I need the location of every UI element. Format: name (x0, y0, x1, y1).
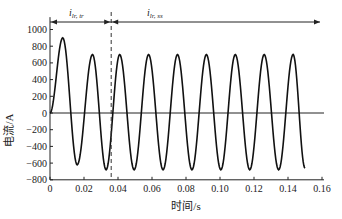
y-tick-label: −600 (26, 158, 47, 169)
transient-label: ilr, tr (69, 7, 84, 20)
y-tick-label: −800 (26, 174, 47, 185)
y-axis-label: 电流/A (2, 113, 15, 146)
y-tick-label: 1000 (27, 24, 47, 35)
x-tick-label: 0.02 (75, 183, 93, 194)
x-axis-label: 时间/s (171, 200, 200, 212)
x-tick-label: 0.12 (245, 183, 263, 194)
y-tick-label: 600 (32, 57, 47, 68)
annotations (50, 12, 320, 180)
steady-state-label: ilr, ss (147, 7, 163, 20)
current-curve (50, 38, 305, 170)
current-waveform-chart: 10008006004002000−200−400−600−80000.020.… (0, 0, 342, 219)
y-tick-label: 200 (32, 91, 47, 102)
x-tick-label: 0.10 (211, 183, 229, 194)
x-tick-label: 0.08 (177, 183, 195, 194)
y-tick-label: 400 (32, 74, 47, 85)
axes: 10008006004002000−200−400−600−80000.020.… (26, 17, 330, 194)
y-tick-label: 0 (42, 108, 47, 119)
x-tick-label: 0.16 (313, 183, 331, 194)
y-tick-label: −200 (26, 124, 47, 135)
y-tick-label: −400 (26, 141, 47, 152)
x-tick-label: 0 (48, 183, 53, 194)
x-tick-label: 0.04 (109, 183, 127, 194)
y-tick-label: 800 (32, 41, 47, 52)
x-tick-label: 0.14 (279, 183, 297, 194)
x-tick-label: 0.06 (143, 183, 161, 194)
